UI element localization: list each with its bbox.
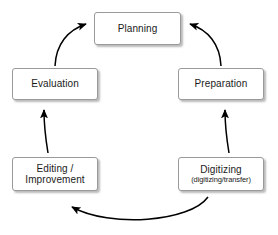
node-preparation-label: Preparation	[195, 78, 248, 90]
node-editing-improvement-label: Editing / Improvement	[25, 163, 84, 186]
node-digitizing-sublabel: (digitizing/transfer)	[191, 175, 251, 184]
node-digitizing-label: Digitizing	[200, 164, 242, 176]
arrow-digitizing-to-preparation	[225, 110, 229, 153]
arrow-evaluation-to-planning	[55, 24, 86, 66]
node-evaluation[interactable]: Evaluation	[12, 68, 98, 100]
node-planning-label: Planning	[118, 23, 158, 35]
node-digitizing[interactable]: Digitizing (digitizing/transfer)	[178, 157, 264, 191]
arrow-digitizing-to-editing	[72, 197, 208, 220]
node-evaluation-label: Evaluation	[31, 78, 79, 90]
node-editing-improvement[interactable]: Editing / Improvement	[12, 157, 98, 191]
node-planning[interactable]: Planning	[94, 12, 181, 45]
process-cycle-diagram: Planning Preparation Digitizing (digitiz…	[0, 0, 278, 235]
arrow-editing-to-evaluation	[44, 110, 48, 153]
node-preparation[interactable]: Preparation	[178, 68, 264, 100]
arrow-preparation-to-planning	[190, 24, 221, 66]
